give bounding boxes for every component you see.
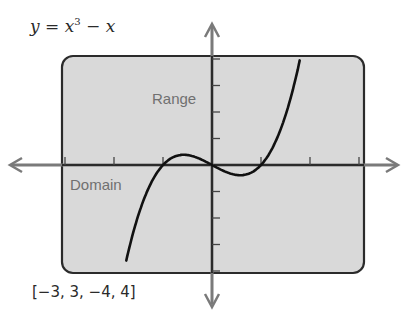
graph-svg [0, 0, 414, 331]
window-settings-label: [−3, 3, −4, 4] [32, 283, 136, 301]
range-label: Range [152, 90, 196, 107]
equation-label: y = x3 − x [30, 16, 115, 36]
domain-label: Domain [70, 176, 122, 193]
